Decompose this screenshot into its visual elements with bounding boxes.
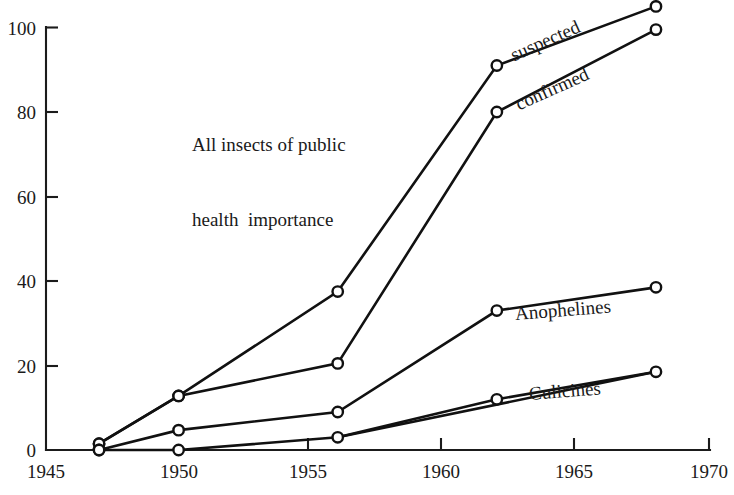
data-point-marker bbox=[492, 305, 502, 315]
x-tick-label-1960: 1960 bbox=[422, 461, 460, 482]
y-tick-label-40: 40 bbox=[17, 271, 36, 292]
x-tick-label-1955: 1955 bbox=[289, 461, 327, 482]
x-tick-label-1965: 1965 bbox=[555, 461, 593, 482]
x-tick-label-1970: 1970 bbox=[690, 461, 728, 482]
caption-line-1: All insects of public bbox=[192, 132, 346, 157]
line-chart: 100 80 60 40 20 0 1945 1950 1955 1960 19… bbox=[0, 0, 734, 495]
x-axis-tick-labels: 1945 1950 1955 1960 1965 1970 bbox=[27, 461, 728, 482]
data-point-marker bbox=[173, 391, 183, 401]
data-point-marker bbox=[651, 282, 661, 292]
data-point-marker bbox=[651, 367, 661, 377]
y-tick-label-60: 60 bbox=[17, 187, 36, 208]
data-point-marker bbox=[94, 445, 104, 455]
data-point-marker bbox=[333, 432, 343, 442]
data-point-marker bbox=[333, 286, 343, 296]
data-point-marker bbox=[173, 425, 183, 435]
y-tick-label-0: 0 bbox=[27, 440, 37, 461]
y-axis-tick-labels: 100 80 60 40 20 0 bbox=[8, 18, 37, 461]
y-tick-label-80: 80 bbox=[17, 102, 36, 123]
caption-line-2: health importance bbox=[192, 207, 346, 232]
plot-area: 100 80 60 40 20 0 1945 1950 1955 1960 19… bbox=[0, 0, 734, 495]
data-point-marker bbox=[492, 60, 502, 70]
y-tick-label-100: 100 bbox=[8, 18, 37, 39]
y-tick-label-20: 20 bbox=[17, 356, 36, 377]
data-point-marker bbox=[651, 1, 661, 11]
x-tick-label-1950: 1950 bbox=[160, 461, 198, 482]
data-point-marker bbox=[333, 358, 343, 368]
data-point-marker bbox=[492, 107, 502, 117]
data-point-marker bbox=[173, 445, 183, 455]
data-point-marker bbox=[651, 24, 661, 34]
data-point-marker bbox=[333, 407, 343, 417]
data-point-marker bbox=[492, 394, 502, 404]
x-tick-label-1945: 1945 bbox=[27, 461, 65, 482]
chart-caption: All insects of public health importance bbox=[192, 82, 346, 282]
